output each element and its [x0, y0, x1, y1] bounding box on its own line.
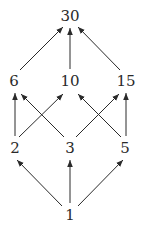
edge-1-to-5 — [78, 160, 123, 206]
edge-6-to-30 — [20, 27, 63, 70]
hasse-diagram: 30 6 10 15 2 3 5 1 — [0, 0, 144, 232]
node-5: 5 — [120, 139, 130, 157]
edge-3-to-15 — [76, 94, 119, 137]
edge-3-to-6 — [21, 94, 64, 137]
node-30: 30 — [60, 7, 79, 25]
node-1: 1 — [65, 206, 75, 224]
edge-2-to-10 — [19, 94, 63, 137]
edge-5-to-10 — [78, 94, 121, 137]
node-3: 3 — [65, 139, 75, 157]
nodes: 30 6 10 15 2 3 5 1 — [9, 7, 135, 224]
node-2: 2 — [10, 139, 20, 157]
edges — [15, 27, 126, 206]
node-10: 10 — [60, 72, 79, 90]
edge-1-to-2 — [17, 160, 62, 206]
edge-15-to-30 — [78, 27, 120, 70]
node-15: 15 — [116, 72, 135, 90]
node-6: 6 — [9, 72, 19, 90]
